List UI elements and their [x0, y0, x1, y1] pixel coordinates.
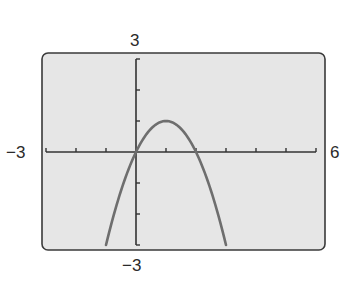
ymin-label: −3 — [122, 257, 141, 274]
xmax-label: 6 — [330, 144, 339, 161]
graph-window — [0, 0, 351, 287]
xmin-label: −3 — [6, 144, 25, 161]
ymax-label: 3 — [130, 32, 139, 49]
